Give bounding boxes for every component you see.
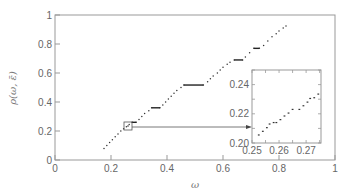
data-point xyxy=(249,52,251,54)
data-point xyxy=(112,139,114,141)
data-point xyxy=(173,93,175,95)
x-tick-label: 0 xyxy=(52,163,58,174)
inset-data-point xyxy=(275,122,277,123)
data-point xyxy=(285,25,287,27)
data-point xyxy=(271,36,273,38)
inset-data-point xyxy=(309,98,311,99)
data-point xyxy=(219,69,221,71)
y-axis-label: ρ(ω, ε̄) xyxy=(7,71,18,106)
data-point xyxy=(103,148,105,150)
y-axis-ticks: 00.20.40.60.81 xyxy=(38,10,60,166)
data-point xyxy=(117,133,119,135)
inset-data-point xyxy=(269,123,271,124)
data-point xyxy=(278,30,280,32)
data-point xyxy=(222,66,224,68)
inset-y-tick-label: 0.22 xyxy=(230,108,250,119)
data-point xyxy=(207,81,209,83)
inset-y-tick-label: 0.20 xyxy=(230,138,250,149)
x-tick-label: 0.4 xyxy=(160,163,174,174)
inset-y-tick-label: 0.24 xyxy=(230,79,250,90)
data-point xyxy=(162,104,164,106)
inset-data-point xyxy=(280,119,282,120)
data-point xyxy=(217,72,219,74)
data-point xyxy=(275,33,277,35)
data-point xyxy=(141,116,143,118)
inset-x-tick-label: 0.26 xyxy=(269,145,289,156)
y-tick-label: 0.4 xyxy=(38,97,52,108)
inset-data-point xyxy=(303,105,305,106)
inset-data-point xyxy=(273,122,275,123)
data-point xyxy=(109,142,111,144)
data-point xyxy=(267,40,269,42)
inset-data-point xyxy=(298,109,300,110)
inset-data-point xyxy=(313,97,315,98)
x-tick-label: 0.2 xyxy=(104,163,118,174)
data-point xyxy=(245,56,247,58)
data-point xyxy=(176,90,178,92)
inset-data-point xyxy=(258,134,260,135)
x-axis-ticks: 00.20.40.60.81 xyxy=(52,155,338,174)
inset-data-point xyxy=(266,127,268,128)
data-point xyxy=(114,136,116,138)
data-point xyxy=(170,95,172,97)
y-tick-label: 0.2 xyxy=(38,126,52,137)
data-point xyxy=(229,61,231,63)
data-point xyxy=(128,124,130,126)
data-point xyxy=(106,145,108,147)
data-point xyxy=(210,78,212,80)
data-point xyxy=(180,87,182,89)
data-point xyxy=(138,119,140,121)
data-point xyxy=(144,113,146,115)
chart: 00.20.40.60.81 00.20.40.60.81 ω ρ(ω, ε̄)… xyxy=(0,0,351,196)
y-tick-label: 1 xyxy=(46,10,52,21)
y-tick-label: 0 xyxy=(46,155,52,166)
inset-data-point xyxy=(288,112,290,113)
data-point xyxy=(263,45,265,47)
x-tick-label: 1 xyxy=(332,163,338,174)
inset-data-point xyxy=(317,93,319,94)
x-tick-label: 0.8 xyxy=(272,163,286,174)
data-point xyxy=(120,130,122,132)
zoom-region-point xyxy=(127,125,129,127)
x-axis-label: ω xyxy=(191,179,199,190)
data-point xyxy=(168,98,170,100)
inset-frame xyxy=(252,70,321,143)
inset-arrow-head xyxy=(246,125,252,129)
inset-data-point xyxy=(284,115,286,116)
inset-data-point xyxy=(292,109,294,110)
data-point xyxy=(212,75,214,77)
data-point xyxy=(165,101,167,103)
x-tick-label: 0.6 xyxy=(216,163,230,174)
y-tick-label: 0.6 xyxy=(38,68,52,79)
data-point xyxy=(226,64,228,66)
inset-x-tick-label: 0.27 xyxy=(296,145,316,156)
inset-data-point xyxy=(262,131,264,132)
data-point xyxy=(126,126,128,128)
data-point xyxy=(282,27,284,29)
inset-data-point xyxy=(307,102,309,103)
y-tick-label: 0.8 xyxy=(38,39,52,50)
data-point xyxy=(148,110,150,112)
